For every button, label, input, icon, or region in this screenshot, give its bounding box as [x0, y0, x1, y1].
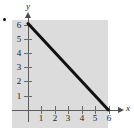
line-plot	[0, 0, 134, 136]
coordinate-graph-figure: y x 1 2 3 4 5 6 1 2 3 4 5 6	[0, 0, 134, 136]
series-line-x-plus-y-equals-6	[28, 24, 108, 110]
